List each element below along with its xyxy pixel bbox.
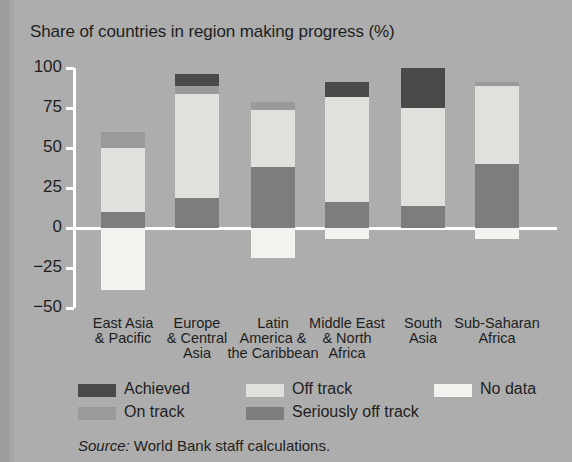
bar-segment xyxy=(475,164,519,228)
legend-label: On track xyxy=(124,403,184,421)
bar-segment-no-data xyxy=(325,228,369,239)
bar-segment xyxy=(101,132,145,148)
bar-stack xyxy=(101,68,145,308)
bar-segment xyxy=(401,206,445,228)
legend-swatch xyxy=(246,407,284,420)
y-axis-tick xyxy=(66,147,74,150)
source-prefix: Source: xyxy=(78,437,130,454)
bar-segment xyxy=(175,198,219,228)
bar-segment-no-data xyxy=(101,228,145,290)
y-axis-tick-label: 75 xyxy=(7,97,62,117)
x-axis-category-label-line: Sub-Saharan xyxy=(437,316,557,331)
chart-title: Share of countries in region making prog… xyxy=(30,22,395,42)
bar-segment-no-data xyxy=(251,228,295,258)
bar-segment xyxy=(175,94,219,198)
bar-segment xyxy=(175,86,219,94)
legend-label: Achieved xyxy=(124,380,190,398)
bar-segment xyxy=(175,74,219,86)
bar-segment xyxy=(401,68,445,108)
bar-segment xyxy=(101,148,145,212)
y-axis-tick xyxy=(66,227,74,230)
bar-stack xyxy=(325,68,369,308)
figure-container: Share of countries in region making prog… xyxy=(0,0,572,462)
y-axis-tick-label: 25 xyxy=(7,177,62,197)
bar-segment xyxy=(325,82,369,96)
y-axis-tick-label: 0 xyxy=(7,217,62,237)
y-axis-tick xyxy=(66,187,74,190)
y-axis-tick-label: 100 xyxy=(7,57,62,77)
bar-stack xyxy=(401,68,445,308)
legend-swatch xyxy=(78,384,116,397)
legend-label: Off track xyxy=(292,380,352,398)
bar-segment xyxy=(325,202,369,228)
bar-segment xyxy=(101,212,145,228)
bar-stack xyxy=(251,68,295,308)
y-axis-tick-label: −50 xyxy=(7,297,62,317)
plot-area: 1007550250−25−50East Asia& PacificEurope… xyxy=(75,68,557,308)
y-axis-tick-label: 50 xyxy=(7,137,62,157)
bar-segment xyxy=(325,97,369,203)
bar-segment xyxy=(475,86,519,164)
bar-segment xyxy=(251,102,295,110)
legend-swatch xyxy=(434,384,472,397)
bar-segment xyxy=(401,108,445,206)
y-axis-tick-label: −25 xyxy=(7,257,62,277)
legend-swatch xyxy=(78,407,116,420)
legend-label: Seriously off track xyxy=(292,403,419,421)
y-axis-tick xyxy=(66,67,74,70)
x-axis-category-label: Sub-SaharanAfrica xyxy=(437,316,557,346)
legend-swatch xyxy=(246,384,284,397)
y-axis-tick xyxy=(66,307,74,310)
legend-label: No data xyxy=(480,380,536,398)
y-axis-tick xyxy=(66,267,74,270)
y-axis-tick xyxy=(66,107,74,110)
bar-stack xyxy=(475,68,519,308)
x-axis-category-label-line: Africa xyxy=(437,331,557,346)
bar-segment-no-data xyxy=(475,228,519,239)
bar-segment xyxy=(251,167,295,228)
source-text: World Bank staff calculations. xyxy=(130,437,330,454)
chart-legend: AchievedOn trackOff trackSeriously off t… xyxy=(78,381,548,427)
bar-segment xyxy=(251,110,295,168)
bar-stack xyxy=(175,68,219,308)
source-note: Source: World Bank staff calculations. xyxy=(78,437,330,454)
x-axis-category-label-line: Africa xyxy=(287,346,407,361)
